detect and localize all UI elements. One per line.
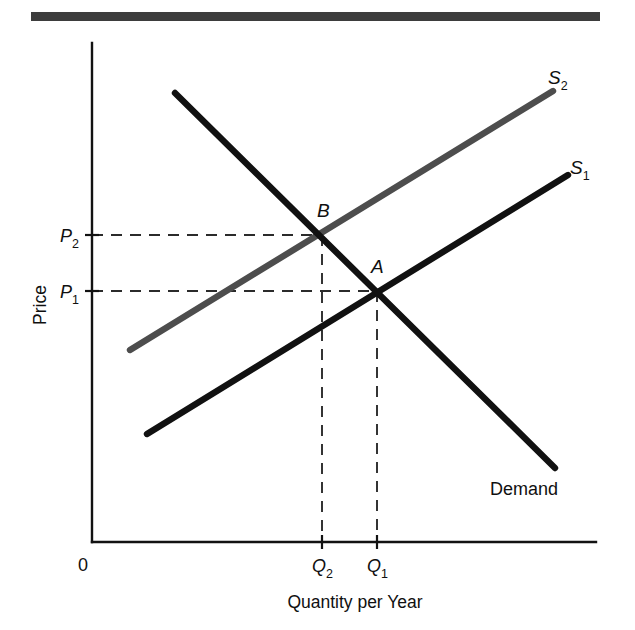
equilibrium-label-a: A [370, 256, 384, 277]
y-axis-title: Price [30, 285, 50, 325]
demand-curve [175, 93, 555, 468]
top-rule-divider [31, 12, 600, 21]
axis-tick-label-q1-letter: Q [367, 556, 381, 576]
curve-label-demand: Demand [490, 479, 558, 499]
axis-tick-label-q2-letter: Q [312, 556, 326, 576]
axis-tick-label-p2-subscript: 2 [72, 237, 79, 251]
curves-group [130, 91, 568, 468]
axes-group [92, 43, 596, 542]
guide-lines-group [92, 235, 377, 537]
tick-marks-group [85, 235, 377, 549]
axis-tick-label-q2: Q2 [312, 556, 333, 581]
curve-label-s1-subscript: 1 [583, 169, 590, 183]
axis-tick-label-p1-subscript: 1 [72, 293, 79, 307]
axis-tick-label-q1: Q1 [367, 556, 388, 581]
axis-tick-label-p2-letter: P [60, 226, 72, 246]
axis-tick-label-q1-subscript: 1 [381, 567, 388, 581]
equilibrium-label-b: B [317, 200, 330, 221]
x-axis-title: Quantity per Year [287, 592, 422, 612]
axis-tick-label-p2: P2 [60, 226, 79, 251]
chart-canvas: S2 S1 Demand B A P2 P1 Q2 Q1 0 Price Qua… [0, 0, 635, 630]
axis-tick-label-q2-subscript: 2 [326, 567, 333, 581]
origin-label: 0 [78, 555, 88, 575]
curve-label-s1: S1 [570, 157, 590, 183]
curve-label-s2-letter: S [548, 67, 561, 88]
axis-tick-label-p1-letter: P [60, 282, 72, 302]
curve-label-s1-letter: S [570, 157, 583, 178]
supply-demand-figure: S2 S1 Demand B A P2 P1 Q2 Q1 0 Price Qua… [0, 0, 635, 630]
axis-tick-label-p1: P1 [60, 282, 79, 307]
curve-label-s2-subscript: 2 [561, 79, 568, 93]
